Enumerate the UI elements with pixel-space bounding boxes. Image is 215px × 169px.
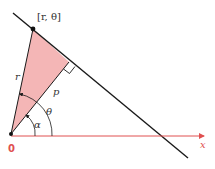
origin-dot (9, 132, 13, 136)
origin-label: 0 (8, 143, 15, 154)
right-angle-marker (64, 67, 76, 74)
p-label: p (53, 86, 60, 97)
point-dot (31, 27, 36, 32)
r-label: r (15, 71, 21, 82)
point-label: [r, θ] (37, 11, 61, 22)
x-axis-label: x (200, 139, 206, 150)
polar-line-diagram: [r, θ] r p θ α 0 x (0, 0, 215, 169)
theta-label: θ (46, 106, 52, 117)
alpha-label: α (34, 119, 41, 130)
